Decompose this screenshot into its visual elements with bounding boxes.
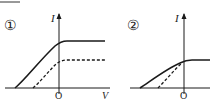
- dashed-curve: [33, 60, 105, 88]
- x-axis-label: V: [102, 90, 110, 101]
- y-axis-arrow-icon: [182, 13, 187, 19]
- origin-label: O: [180, 90, 187, 101]
- panel-2-label: ②: [127, 18, 140, 33]
- solid-curve: [15, 41, 105, 88]
- solid-curve: [140, 60, 210, 88]
- panel-1-label: ①: [4, 18, 17, 33]
- y-axis-label: I: [174, 12, 180, 24]
- origin-label: O: [55, 90, 62, 101]
- diagram-canvas: ① I O V ② I O: [0, 0, 210, 106]
- y-axis-arrow-icon: [57, 13, 62, 19]
- panel-1: ① I O V: [4, 12, 110, 101]
- panel-2: ② I O: [127, 12, 210, 101]
- y-axis-label: I: [50, 12, 56, 24]
- dashed-curve: [158, 63, 182, 88]
